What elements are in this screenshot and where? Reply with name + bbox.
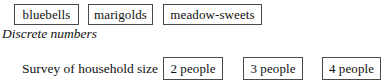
example-box-bluebells: bluebells [14, 4, 79, 25]
document-page: bluebells marigolds meadow-sweets Discre… [0, 0, 382, 83]
example-box-marigolds: marigolds [88, 4, 153, 25]
example-box-meadow-sweets: meadow-sweets [163, 4, 262, 25]
example-box-three-people: 3 people [243, 57, 303, 80]
survey-row-label: Survey of household size [22, 62, 158, 76]
section-heading-discrete-numbers: Discrete numbers [2, 27, 97, 41]
example-box-two-people: 2 people [163, 57, 223, 80]
example-box-four-people: 4 people [322, 57, 381, 80]
